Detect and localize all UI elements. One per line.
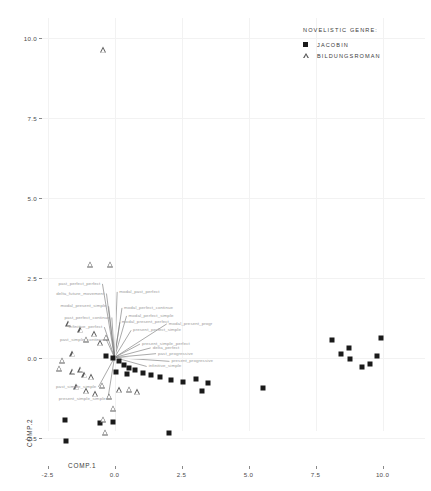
data-point-jacobin xyxy=(199,389,204,394)
data-point-bildungsroman xyxy=(126,386,132,392)
data-point-jacobin xyxy=(111,355,116,360)
y-tick-mark xyxy=(39,38,42,39)
data-point-jacobin xyxy=(158,375,163,380)
vector-label: modal_perfect_simple xyxy=(129,313,174,318)
vector-label: delta_future_movement xyxy=(56,291,104,296)
gridline-vertical xyxy=(182,18,183,431)
data-point-jacobin xyxy=(168,377,173,382)
scatter-plot-canvas: -2.50.02.55.07.510.0-2.50.02.55.07.510.0… xyxy=(0,0,431,491)
data-point-jacobin xyxy=(64,438,69,443)
y-tick-mark xyxy=(39,198,42,199)
vector-label: past_progressive xyxy=(158,351,193,356)
y-tick-mark xyxy=(39,118,42,119)
gridline-horizontal xyxy=(40,118,425,119)
data-point-jacobin xyxy=(148,373,153,378)
biplot-vector xyxy=(115,330,132,357)
legend-item-jacobin[interactable]: JACOBIN xyxy=(303,39,381,50)
gridline-horizontal xyxy=(40,278,425,279)
data-point-jacobin xyxy=(113,369,118,374)
x-tick-mark xyxy=(182,466,183,469)
x-tick-label: 2.5 xyxy=(177,471,187,478)
data-point-jacobin xyxy=(368,361,373,366)
gridline-vertical xyxy=(249,18,250,431)
data-point-jacobin xyxy=(375,353,380,358)
open-triangle-icon xyxy=(303,53,317,58)
data-point-bildungsroman xyxy=(70,351,76,357)
data-point-jacobin xyxy=(379,336,384,341)
y-tick-mark xyxy=(39,278,42,279)
data-point-jacobin xyxy=(180,379,185,384)
y-tick-label: 5.0 xyxy=(14,194,37,201)
y-tick-label: 2.5 xyxy=(14,274,37,281)
x-tick-label: 5.0 xyxy=(244,471,254,478)
vector-label: past_perfect_perfect xyxy=(58,281,100,286)
gridline-vertical xyxy=(48,18,49,431)
vector-label: modal_present_simple xyxy=(60,303,106,308)
data-point-jacobin xyxy=(206,381,211,386)
biplot-vector xyxy=(115,344,140,357)
data-point-bildungsroman xyxy=(117,387,123,393)
legend-label-jacobin: JACOBIN xyxy=(317,42,349,48)
x-tick-label: 0.0 xyxy=(110,471,120,478)
gridline-horizontal xyxy=(40,198,425,199)
data-point-bildungsroman xyxy=(102,429,108,435)
data-point-jacobin xyxy=(104,353,109,358)
data-point-bildungsroman xyxy=(101,416,107,422)
data-point-bildungsroman xyxy=(89,374,95,380)
legend-item-bildungsroman[interactable]: BILDUNGSROMAN xyxy=(303,50,381,61)
data-point-bildungsroman xyxy=(87,261,93,267)
y-tick-label: 10.0 xyxy=(14,34,37,41)
biplot-vector xyxy=(106,294,114,358)
data-point-jacobin xyxy=(167,430,172,435)
y-tick-mark xyxy=(39,358,42,359)
x-tick-mark xyxy=(48,466,49,469)
x-tick-label: 10.0 xyxy=(376,471,389,478)
data-point-bildungsroman xyxy=(82,371,88,377)
data-point-jacobin xyxy=(347,345,352,350)
vector-label: modal_past_perfect xyxy=(119,289,159,294)
data-point-jacobin xyxy=(111,419,116,424)
gridline-vertical xyxy=(316,18,317,431)
data-point-jacobin xyxy=(194,377,199,382)
vector-label: modal_perfect_continue xyxy=(124,305,173,310)
data-point-bildungsroman xyxy=(101,47,107,53)
biplot-vector xyxy=(115,308,123,358)
vector-label: past_perfect_continue xyxy=(65,315,110,320)
data-point-bildungsroman xyxy=(106,393,112,399)
x-tick-label: -2.5 xyxy=(42,471,54,478)
vector-label: past_simple_simple xyxy=(56,384,96,389)
legend-title: NOVELISTIC GENRE: xyxy=(303,27,381,33)
filled-square-icon xyxy=(303,42,317,47)
x-axis-title: COMP.1 xyxy=(68,462,96,469)
data-point-bildungsroman xyxy=(70,368,76,374)
data-point-jacobin xyxy=(116,358,121,363)
vector-label: infinitive_perfect xyxy=(69,324,103,329)
y-tick-label: 0.0 xyxy=(14,354,37,361)
data-point-jacobin xyxy=(338,351,343,356)
vector-label: past_simple_continue xyxy=(60,337,104,342)
data-point-bildungsroman xyxy=(59,357,65,363)
data-point-bildungsroman xyxy=(110,405,116,411)
data-point-jacobin xyxy=(261,385,266,390)
data-point-jacobin xyxy=(348,357,353,362)
biplot-vector xyxy=(115,348,151,358)
data-point-jacobin xyxy=(329,337,334,342)
data-point-jacobin xyxy=(132,368,137,373)
x-tick-mark xyxy=(316,466,317,469)
x-tick-mark xyxy=(249,466,250,469)
data-point-jacobin xyxy=(124,372,129,377)
vector-label: present_simple_simple xyxy=(59,396,106,401)
data-point-bildungsroman xyxy=(134,388,140,394)
data-point-jacobin xyxy=(62,417,67,422)
gridline-horizontal xyxy=(40,438,425,439)
vector-label: delta_perfect xyxy=(153,345,180,350)
data-point-jacobin xyxy=(140,370,145,375)
legend-label-bildungsroman: BILDUNGSROMAN xyxy=(317,53,381,59)
y-axis-title: COMP.2 xyxy=(26,419,33,447)
data-point-bildungsroman xyxy=(57,365,63,371)
vector-label: present_perfect_simple xyxy=(133,327,181,332)
vector-label: modal_present_progr xyxy=(169,321,213,326)
data-point-bildungsroman xyxy=(107,261,113,267)
data-point-jacobin xyxy=(127,365,132,370)
data-point-jacobin xyxy=(121,362,126,367)
